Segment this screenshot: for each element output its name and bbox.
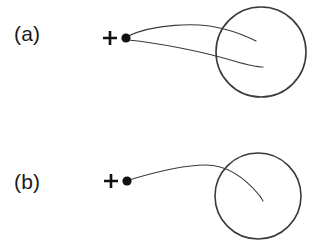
panel-a-lower-trajectory <box>128 40 263 67</box>
panel-b-source-dot <box>122 176 131 185</box>
panel-b-circle <box>215 153 301 239</box>
panel-a-source-dot <box>121 33 130 42</box>
panel-a-plus-icon <box>103 31 117 45</box>
panel-a: (a) <box>0 0 323 124</box>
panel-a-circle <box>216 7 306 97</box>
panel-a-diagram <box>0 0 323 124</box>
panel-b-single-trajectory <box>129 165 263 201</box>
figure-container: (a) (b) <box>0 0 323 248</box>
panel-a-upper-trajectory <box>128 25 256 41</box>
panel-b-plus-icon <box>104 174 118 188</box>
panel-b-diagram <box>0 124 323 248</box>
panel-b: (b) <box>0 124 323 248</box>
